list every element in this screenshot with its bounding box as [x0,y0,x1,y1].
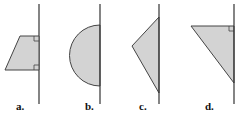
right-triangle-shape [191,26,234,83]
panel-label-c: c. [139,100,147,112]
semicircle-shape [70,25,100,86]
panel-c: c. [132,4,159,112]
panel-label-a: a. [16,100,25,112]
panel-label-d: d. [205,100,214,112]
panel-a: a. [5,4,39,112]
panel-d: d. [191,4,234,112]
figure-canvas: a. b. c. d. [0,0,240,113]
triangle-shape [132,17,159,93]
panel-b: b. [70,4,100,112]
panel-label-b: b. [85,100,94,112]
